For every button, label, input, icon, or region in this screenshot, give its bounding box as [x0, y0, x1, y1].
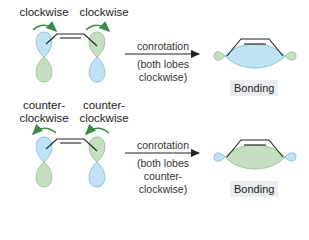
bottom-arrow-sub-1: (both lobes [125, 157, 201, 170]
bottom-arrow-sub-3: clockwise) [125, 183, 201, 196]
bottom-right-counterclockwise-arrow-icon [86, 128, 109, 134]
bottom-left-rotation-label-1: counter- [16, 99, 72, 112]
bottom-arrow-label: conrotation [125, 139, 201, 152]
top-arrow-sub-2: clockwise) [125, 71, 201, 84]
top-left-p-orbital-icon [36, 32, 52, 82]
bottom-left-rotation-label-2: clockwise [16, 112, 72, 125]
top-arrow-label: conrotation [125, 40, 201, 53]
bottom-right-rotation-label-1: counter- [76, 99, 132, 112]
bottom-right-p-orbital-icon [89, 137, 105, 187]
top-right-clockwise-arrow-icon [86, 25, 109, 31]
top-arrow-sub-1: (both lobes [125, 58, 201, 71]
bottom-arrow-sub-2: counter- [125, 170, 201, 183]
bottom-left-p-orbital-icon [36, 137, 52, 187]
bottom-bonding-label: Bonding [230, 181, 278, 197]
top-bonding-label: Bonding [230, 80, 278, 96]
top-bonding-orbital-icon [214, 44, 296, 68]
bottom-left-counterclockwise-arrow-icon [33, 128, 56, 134]
bottom-bonding-orbital-icon [214, 145, 296, 169]
top-left-clockwise-arrow-icon [33, 25, 56, 31]
top-right-p-orbital-icon [89, 32, 105, 82]
bottom-right-rotation-label-2: clockwise [76, 112, 132, 125]
